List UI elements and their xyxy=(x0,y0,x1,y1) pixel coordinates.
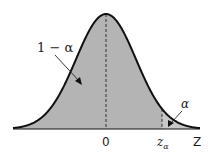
normal-curve-diagram: 1 − α α 0 zα Z xyxy=(0,0,210,155)
center-tick-label: 0 xyxy=(102,135,110,149)
area-tail-label: α xyxy=(181,97,189,111)
critical-tick-label: zα xyxy=(156,135,169,151)
area-main-label: 1 − α xyxy=(37,40,73,55)
main-area-fill xyxy=(13,14,162,129)
critical-tick-subscript: α xyxy=(163,142,169,151)
axis-label: Z xyxy=(193,135,201,149)
curve-shapes xyxy=(13,14,200,129)
